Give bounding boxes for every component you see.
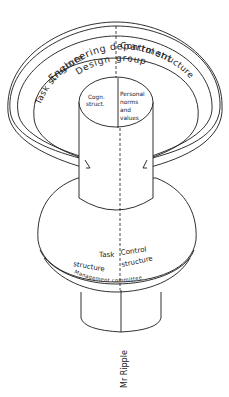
cognitive-structure-label-1: Cogn. xyxy=(88,94,105,101)
cognitive-structure-label-2: struct. xyxy=(86,101,105,107)
personal-norms-label-2: norms xyxy=(120,99,138,105)
personal-norms-label-1: Personal xyxy=(120,91,145,97)
task-structure-label: Task structure xyxy=(32,52,85,107)
mr-ripple-label: Mr Ripple xyxy=(120,350,129,388)
organizational-structure-diagram: Engineering department Task structure Co… xyxy=(0,0,229,397)
personal-norms-label-4: values xyxy=(120,115,139,121)
lower-task-label: Task xyxy=(98,250,115,259)
personal-norms-label-3: and xyxy=(120,107,131,113)
